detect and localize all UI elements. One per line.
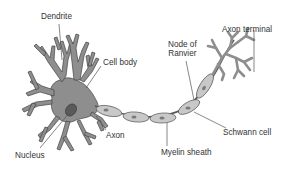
label-node-of-ranvier-line1: Node of [168,40,197,49]
label-dendrite: Dendrite [41,12,72,21]
label-cell-body: Cell body [103,58,137,67]
label-myelin-sheath: Myelin sheath [161,148,212,157]
label-axon: Axon [106,131,125,140]
label-node-of-ranvier: Node of Ranvier [168,40,197,58]
label-nucleus: Nucleus [15,151,45,160]
myelin-sheath [95,71,216,123]
label-axon-terminal: Axon terminal [222,25,272,34]
label-schwann-cell: Schwann cell [223,128,271,137]
dendrites [22,34,108,151]
label-node-of-ranvier-line2: Ranvier [168,49,197,58]
axon-terminal [208,28,254,80]
